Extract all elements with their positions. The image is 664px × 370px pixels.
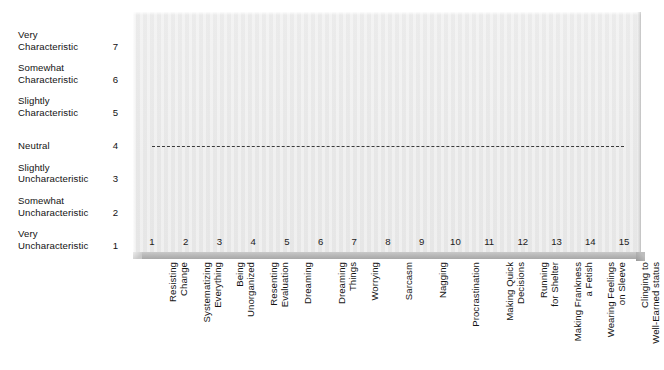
y-axis-level-label: Very Characteristic	[18, 29, 104, 52]
x-axis-tick-6: 6	[306, 235, 336, 248]
x-axis-base-face	[133, 252, 641, 259]
y-axis-level-value: 7	[104, 41, 118, 53]
y-axis-level-value: 1	[104, 240, 118, 252]
x-axis-tick-8: 8	[373, 235, 403, 248]
y-axis-level-label: Slightly Characteristic	[18, 95, 104, 118]
x-axis-category-label-10: Procrastination	[470, 262, 500, 370]
x-axis-tick-2: 2	[171, 235, 201, 248]
x-axis-tick-13: 13	[542, 235, 572, 248]
y-axis-level-label: Slightly Uncharacteristic	[18, 162, 104, 185]
x-axis-tick-7: 7	[339, 235, 369, 248]
x-axis-category-label-4: Resenting Evaluation	[268, 262, 298, 370]
x-axis-tick-14: 14	[575, 235, 605, 248]
y-axis-level-label: Very Uncharacteristic	[18, 228, 104, 251]
x-axis-category-labels: Resisting ChangeSystematizing Everything…	[133, 262, 645, 370]
x-axis-tick-11: 11	[474, 235, 504, 248]
x-axis-category-label-14: Wearing Feelings on Sleeve	[605, 262, 635, 370]
x-axis-base-bevel-right	[636, 252, 645, 261]
y-axis-level-label: Neutral	[18, 140, 104, 152]
y-axis-level-5: Slightly Characteristic5	[0, 95, 131, 125]
x-axis-category-label-7: Worrying	[369, 262, 399, 370]
x-axis-tick-4: 4	[238, 235, 268, 248]
y-axis-level-6: Somewhat Characteristic6	[0, 62, 131, 92]
x-axis-category-label-11: Making Quick Decisions	[504, 262, 534, 370]
x-axis-category-label-13: Making Frankness a Fetish	[572, 262, 602, 370]
x-axis-category-label-12: Running for Shelter	[538, 262, 568, 370]
neutral-reference-line	[152, 146, 624, 147]
x-axis-tick-15: 15	[609, 235, 639, 248]
x-axis-base-plate	[133, 252, 645, 261]
x-axis-category-label-9: Nagging	[437, 262, 467, 370]
y-axis-level-value: 5	[104, 107, 118, 119]
x-axis-category-label-15: Clinging to Well-Earned status	[639, 262, 664, 370]
plot-background	[133, 12, 641, 252]
plot-left-highlight	[133, 12, 136, 252]
y-axis-level-value: 2	[104, 207, 118, 219]
x-axis-category-label-1: Resisting Change	[167, 262, 197, 370]
y-axis-level-value: 6	[104, 74, 118, 86]
plot-top-highlight	[133, 12, 641, 15]
y-axis-level-label: Somewhat Uncharacteristic	[18, 195, 104, 218]
y-axis-level-value: 3	[104, 173, 118, 185]
y-axis-level-label: Somewhat Characteristic	[18, 62, 104, 85]
x-axis-tick-3: 3	[204, 235, 234, 248]
y-axis-level-2: Somewhat Uncharacteristic2	[0, 195, 131, 225]
y-axis-level-3: Slightly Uncharacteristic3	[0, 162, 131, 192]
x-axis-tick-12: 12	[508, 235, 538, 248]
plot-area	[133, 12, 641, 252]
x-axis-base-bevel-left	[133, 252, 142, 259]
x-axis-category-label-5: Dreaming	[302, 262, 332, 370]
x-axis-tick-1: 1	[137, 235, 167, 248]
y-axis-level-value: 4	[104, 140, 118, 152]
x-axis-tick-10: 10	[440, 235, 470, 248]
y-axis-scale: Very Characteristic7Somewhat Characteris…	[0, 0, 131, 255]
x-axis-tick-9: 9	[407, 235, 437, 248]
y-axis-level-7: Very Characteristic7	[0, 29, 131, 59]
x-axis-category-label-3: Being Unorganized	[234, 262, 264, 370]
x-axis-category-label-6: Dreaming Things	[336, 262, 366, 370]
plot-right-shadow	[637, 12, 641, 252]
x-axis-category-label-2: Systematizing Everything	[201, 262, 231, 370]
y-axis-level-4: Neutral4	[0, 129, 131, 159]
x-axis-tick-5: 5	[272, 235, 302, 248]
y-axis-level-1: Very Uncharacteristic1	[0, 228, 131, 258]
x-axis-category-label-8: Sarcasm	[403, 262, 433, 370]
x-axis-tick-numbers: 123456789101112131415	[133, 232, 641, 252]
